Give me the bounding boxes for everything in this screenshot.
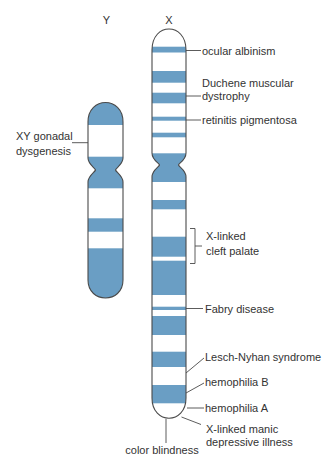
label-text-line1: X-linked [206, 230, 246, 242]
chromosome-band [0, 237, 329, 257]
label-lesch-nyhan-syndrome: Lesch-Nyhan syndrome [186, 351, 321, 374]
label-fabry-disease: Fabry disease [186, 303, 274, 315]
label-text-line2: dysgenesis [16, 145, 72, 157]
chromosome-band [0, 93, 329, 104]
label-x-linked-cleft-palate: X-linked cleft palate [190, 229, 259, 264]
chromosome-band [0, 307, 329, 310]
chromosome-band [0, 47, 329, 53]
label-text-line1: XY gonadal [16, 130, 73, 142]
label-text-line2: depressive illness [206, 436, 293, 448]
label-color-blindness: color blindness [125, 419, 199, 456]
leader-line [186, 383, 204, 393]
x-chromosome-header: X [165, 14, 173, 26]
chromosome-band [0, 153, 329, 182]
label-text: Fabry disease [205, 303, 274, 315]
sex-chromosome-gene-map: Y X XY gonadal dysgenesis ocular albinis… [0, 0, 329, 461]
bracket [190, 229, 195, 264]
label-text: ocular albinism [202, 45, 275, 57]
label-ocular-albinism: ocular albinism [186, 45, 275, 57]
chromosome-band [0, 200, 329, 209]
label-duchene-muscular-dystrophy: Duchene muscular dystrophy [186, 77, 294, 102]
label-text: hemophilia B [205, 376, 269, 388]
label-retinitis-pigmentosa: retinitis pigmentosa [186, 114, 298, 126]
label-text-line1: X-linked manic [206, 423, 279, 435]
label-text: Lesch-Nyhan syndrome [205, 351, 321, 363]
chromosome-band [0, 261, 329, 295]
label-hemophilia-b: hemophilia B [186, 376, 269, 394]
label-text: retinitis pigmentosa [202, 114, 298, 126]
chromosome-band [0, 385, 329, 403]
chromosome-band [0, 316, 329, 335]
label-text: hemophilia A [205, 402, 269, 414]
label-xy-gonadal-dysgenesis: XY gonadal dysgenesis [16, 130, 88, 157]
label-hemophilia-a: hemophilia A [187, 402, 269, 414]
label-text-line2: dystrophy [202, 90, 250, 102]
label-text: color blindness [125, 444, 199, 456]
y-chromosome-header: Y [103, 14, 111, 26]
leader-line [186, 358, 204, 373]
leader-line [182, 417, 202, 425]
label-text-line2: cleft palate [206, 245, 259, 257]
chromosome-band [0, 218, 329, 231]
label-text-line1: Duchene muscular [202, 77, 294, 89]
